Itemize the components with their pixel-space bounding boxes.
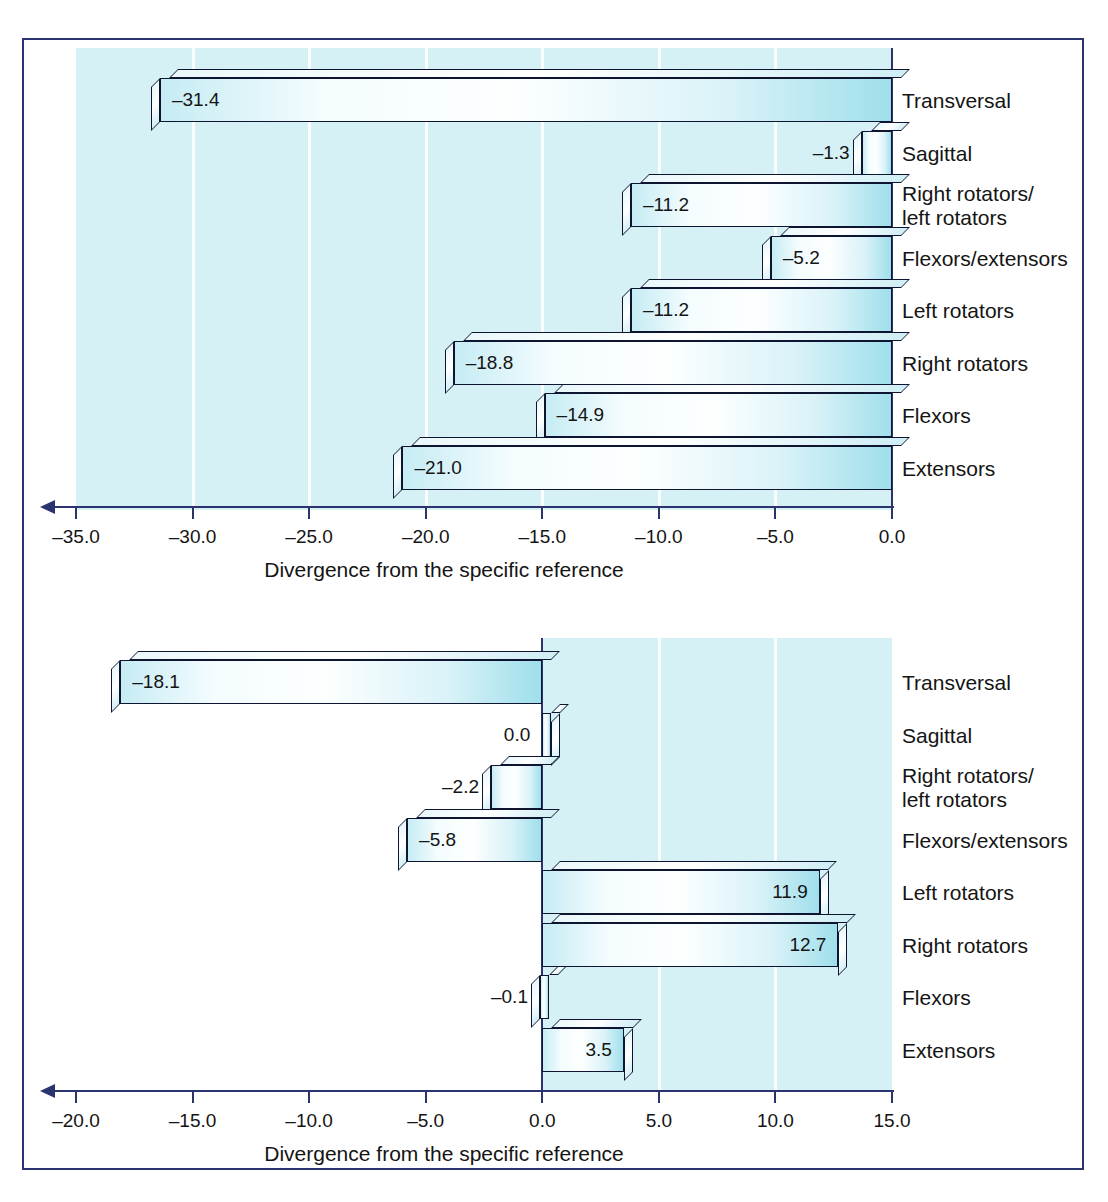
bar-value-label: 11.9 (772, 882, 808, 901)
x-axis-tick (774, 508, 776, 519)
category-label: Right rotators (902, 352, 1028, 376)
bar[interactable] (542, 713, 551, 757)
x-axis-tick (308, 1092, 310, 1103)
bar-front-face (402, 446, 892, 490)
bar-top-face (780, 227, 910, 236)
category-label: Right rotators/ left rotators (902, 182, 1034, 229)
chart-panel-bottom: –18.1Transversal0.0Sagittal–2.2Right rot… (24, 612, 1086, 1170)
bar-left-cap (111, 660, 120, 713)
x-axis-tick-label: 0.0 (529, 1110, 555, 1132)
bar-value-label: –11.2 (643, 300, 689, 319)
bar[interactable] (491, 765, 542, 809)
bar-value-label: 3.5 (585, 1040, 611, 1059)
bar-right-cap (624, 1028, 633, 1081)
category-label: Extensors (902, 1039, 995, 1063)
x-axis-tick (774, 1092, 776, 1103)
x-axis-arrow-icon (40, 1084, 55, 1098)
bar-top-face (411, 437, 910, 446)
bar-value-label: –2.2 (442, 777, 479, 796)
bar-value-label: –31.4 (172, 90, 220, 109)
bar-front-face (540, 975, 549, 1019)
x-axis-tick-label: –25.0 (285, 526, 333, 548)
bar-value-label: 0.0 (504, 725, 530, 744)
x-axis-arrow-icon (40, 500, 55, 514)
bar-top-face (640, 279, 910, 288)
bar-top-face (640, 174, 910, 183)
bar-front-face (120, 660, 542, 704)
bar-top-face (551, 1019, 642, 1028)
x-axis-tick (658, 508, 660, 519)
category-label: Left rotators (902, 881, 1014, 905)
x-axis-tick-label: –5.0 (407, 1110, 444, 1132)
x-axis-tick-label: 5.0 (646, 1110, 672, 1132)
chart-panel-top: –31.4Transversal–1.3Sagittal–11.2Right r… (24, 40, 1086, 600)
bar-value-label: –5.8 (419, 830, 456, 849)
x-axis-tick (541, 1092, 543, 1103)
bar-top-face (551, 861, 837, 870)
bar-left-cap (393, 446, 402, 499)
bar-front-face (454, 341, 892, 385)
x-axis-title: Divergence from the specific reference (264, 558, 624, 582)
bar-left-cap (622, 183, 631, 236)
bar-top-face (169, 69, 910, 78)
x-axis-tick-label: –30.0 (169, 526, 217, 548)
category-label: Right rotators/ left rotators (902, 764, 1034, 811)
bar-front-face (160, 78, 892, 122)
category-label: Left rotators (902, 299, 1014, 323)
x-axis-tick (192, 508, 194, 519)
bar-value-label: –14.9 (557, 405, 605, 424)
x-axis-tick-label: –10.0 (285, 1110, 333, 1132)
x-axis-line (54, 506, 894, 508)
x-axis-tick-label: –15.0 (519, 526, 567, 548)
figure-frame: –31.4Transversal–1.3Sagittal–11.2Right r… (22, 38, 1084, 1170)
bar-value-label: 12.7 (789, 935, 826, 954)
bar-right-cap (838, 923, 847, 976)
bar[interactable] (160, 78, 892, 122)
bar[interactable] (454, 341, 892, 385)
bar[interactable] (862, 131, 892, 175)
bar-left-cap (531, 975, 540, 1028)
bar-value-label: –11.2 (643, 195, 689, 214)
x-axis-tick-label: 15.0 (874, 1110, 911, 1132)
bar[interactable] (402, 446, 892, 490)
category-label: Flexors (902, 986, 971, 1010)
x-axis-tick-label: –20.0 (52, 1110, 100, 1132)
x-axis-tick-label: –15.0 (169, 1110, 217, 1132)
category-label: Flexors (902, 404, 971, 428)
x-axis-title: Divergence from the specific reference (264, 1142, 624, 1166)
bar-top-face (129, 651, 560, 660)
x-axis-tick (308, 508, 310, 519)
bar[interactable] (120, 660, 542, 704)
bar-left-cap (398, 818, 407, 871)
x-axis-tick (891, 1092, 893, 1103)
x-axis-tick-label: –10.0 (635, 526, 683, 548)
category-label: Flexors/extensors (902, 247, 1068, 271)
category-label: Transversal (902, 89, 1011, 113)
category-label: Transversal (902, 671, 1011, 695)
bar-front-face (542, 713, 551, 757)
x-axis-tick (75, 508, 77, 519)
x-axis-tick (425, 1092, 427, 1103)
bar-value-label: –1.3 (813, 143, 850, 162)
x-axis-tick-label: –35.0 (52, 526, 100, 548)
bar-left-cap (151, 78, 160, 131)
category-label: Flexors/extensors (902, 829, 1068, 853)
bar-value-label: –18.1 (132, 672, 180, 691)
bar[interactable] (540, 975, 549, 1019)
x-axis-tick-label: 10.0 (757, 1110, 794, 1132)
x-axis-line (54, 1090, 894, 1092)
category-label: Sagittal (902, 724, 972, 748)
x-axis-tick-label: 0.0 (879, 526, 905, 548)
x-axis-tick (541, 508, 543, 519)
x-axis-tick (75, 1092, 77, 1103)
category-label: Extensors (902, 457, 995, 481)
bar-top-face (463, 332, 910, 341)
x-axis-tick (891, 508, 893, 519)
bar-value-label: –21.0 (414, 458, 462, 477)
bar-front-face (862, 131, 892, 175)
bar-top-face (554, 384, 910, 393)
bar-value-label: –18.8 (466, 353, 514, 372)
x-axis-tick-label: –20.0 (402, 526, 450, 548)
bar-top-face (551, 914, 856, 923)
x-axis-tick-label: –5.0 (757, 526, 794, 548)
